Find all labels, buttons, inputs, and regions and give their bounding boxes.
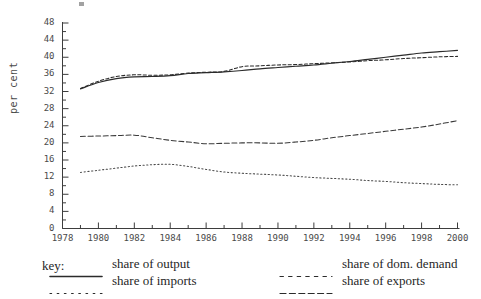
- y-tick-label: 36: [35, 68, 55, 78]
- x-tick-label: 1988: [225, 233, 259, 243]
- y-tick-label: 12: [35, 171, 55, 181]
- legend-line-swatch: [278, 264, 334, 266]
- x-tick-label: 1990: [261, 233, 295, 243]
- series-line-share-of-exports: [80, 121, 457, 144]
- y-tick-label: 44: [35, 34, 55, 44]
- series-line-share-of-output: [80, 50, 457, 89]
- legend-swatch-graphic: [278, 275, 334, 278]
- series-line-share-of-imports: [80, 164, 457, 185]
- chart-plot-area: [0, 0, 481, 299]
- legend-item-label: share of dom. demand: [342, 256, 458, 272]
- series-line-share-of-dom-demand: [80, 56, 457, 88]
- legend-swatch-graphic: [48, 292, 104, 295]
- legend-line-swatch: [48, 264, 104, 266]
- legend-item-label: share of exports: [342, 273, 425, 289]
- legend-item-label: share of imports: [112, 273, 196, 289]
- y-tick-label: 16: [35, 154, 55, 164]
- x-tick-label: 1994: [333, 233, 367, 243]
- x-tick-label: 1978: [46, 233, 80, 243]
- legend-swatch-graphic: [48, 275, 104, 278]
- y-tick-label: 28: [35, 103, 55, 113]
- legend-line-swatch: [48, 281, 104, 283]
- x-tick-label: 1996: [369, 233, 403, 243]
- legend-swatch-graphic: [278, 292, 334, 295]
- x-tick-label: 1998: [405, 233, 439, 243]
- y-tick-label: 8: [35, 188, 55, 198]
- scan-artifact-speck: [79, 2, 84, 6]
- y-tick-label: 0: [35, 223, 55, 233]
- chart-figure: per cent 04812162024283236404448 1978198…: [0, 0, 481, 299]
- y-tick-label: 4: [35, 205, 55, 215]
- x-tick-label: 1986: [189, 233, 223, 243]
- x-tick-label: 1992: [297, 233, 331, 243]
- x-tick-label: 1980: [81, 233, 115, 243]
- x-tick-label: 2000: [441, 233, 475, 243]
- x-tick-label: 1984: [153, 233, 187, 243]
- legend-line-swatch: [278, 281, 334, 283]
- y-tick-label: 24: [35, 120, 55, 130]
- y-tick-label: 32: [35, 86, 55, 96]
- legend-item-label: share of output: [112, 256, 190, 272]
- y-tick-label: 48: [35, 17, 55, 27]
- x-tick-label: 1982: [117, 233, 151, 243]
- y-tick-label: 20: [35, 137, 55, 147]
- chart-legend: key: share of outputshare of importsshar…: [42, 256, 472, 296]
- y-tick-label: 40: [35, 51, 55, 61]
